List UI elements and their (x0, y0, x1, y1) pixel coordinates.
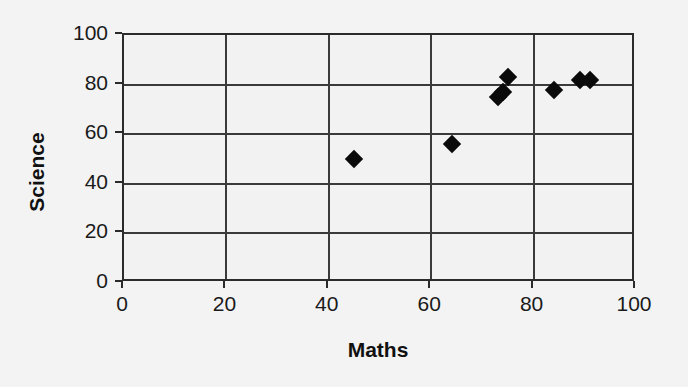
data-point-marker (545, 80, 563, 98)
y-axis-tick-label: 20 (85, 220, 108, 241)
x-axis-tick (121, 281, 123, 288)
x-axis-tick-label: 0 (116, 293, 128, 314)
x-axis-tick (531, 281, 533, 288)
y-axis-tick-label: 40 (85, 171, 108, 192)
y-axis-title: Science (24, 87, 50, 257)
y-axis-tick (115, 131, 122, 133)
y-axis-tick (115, 82, 122, 84)
x-axis-title: Maths (122, 338, 634, 362)
y-axis-tick-label: 60 (85, 121, 108, 142)
y-axis-tick-label: 80 (85, 72, 108, 93)
data-point-marker (581, 70, 599, 88)
x-axis-tick-label: 80 (520, 293, 543, 314)
x-axis-tick-label: 20 (213, 293, 236, 314)
data-point-marker (345, 150, 363, 168)
x-axis-tick (223, 281, 225, 288)
data-point-marker (442, 135, 460, 153)
x-axis-tick (428, 281, 430, 288)
y-axis-tick-label: 0 (96, 270, 108, 291)
x-axis-tick-label: 60 (418, 293, 441, 314)
y-axis-title-text: Science (25, 132, 49, 211)
y-axis-tick (115, 32, 122, 34)
y-axis-tick (115, 181, 122, 183)
x-axis-tick-label: 100 (616, 293, 651, 314)
x-axis-tick (633, 281, 635, 288)
x-axis-tick (326, 281, 328, 288)
data-markers (124, 35, 632, 279)
plot-area (122, 33, 634, 281)
x-axis-tick-label: 40 (315, 293, 338, 314)
y-axis-tick (115, 230, 122, 232)
y-axis-tick-label: 100 (73, 22, 108, 43)
scatter-chart: 020406080100020406080100 Science Maths (0, 0, 688, 387)
